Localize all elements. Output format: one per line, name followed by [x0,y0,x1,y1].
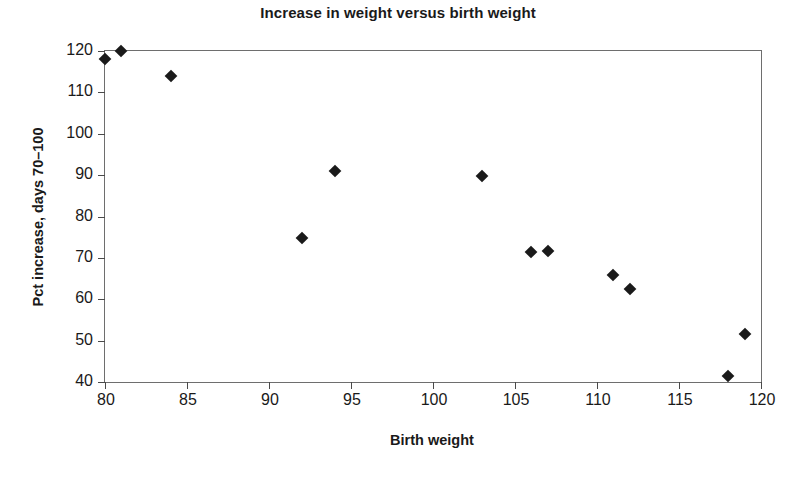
x-axis-tick: 90 [269,382,270,389]
y-axis-tick-label: 70 [75,248,93,266]
y-axis-tick: 80 [98,217,105,218]
y-axis-tick: 60 [98,299,105,300]
x-axis-tick-label: 80 [97,391,115,409]
y-axis-tick: 90 [98,175,105,176]
x-axis-tick: 80 [105,382,106,389]
x-axis-tick: 110 [597,382,598,389]
y-axis-tick-label: 120 [66,41,93,59]
data-point [738,328,751,341]
data-point [164,69,177,82]
data-point [476,170,489,183]
y-axis-tick: 100 [98,134,105,135]
x-axis-tick-label: 110 [585,391,611,409]
y-axis-tick-label: 80 [75,207,93,225]
y-axis-tick-label: 40 [75,372,93,390]
y-axis-tick-label: 100 [66,124,93,142]
y-axis-tick-label: 110 [67,82,93,100]
y-axis-tick: 50 [98,341,105,342]
chart-title: Increase in weight versus birth weight [0,4,796,21]
data-point [328,165,341,178]
x-axis-tick-label: 115 [667,391,693,409]
data-point [722,369,735,382]
x-axis-tick: 115 [679,382,680,389]
y-axis-tick-label: 50 [75,331,93,349]
data-point [607,269,620,282]
x-axis-tick: 120 [761,382,762,389]
x-axis-tick-label: 100 [421,391,448,409]
data-point [525,245,538,258]
x-axis-tick-label: 90 [261,391,279,409]
data-point [115,45,128,58]
data-point [295,232,308,245]
x-axis-tick-label: 95 [343,391,361,409]
x-axis-tick: 100 [433,382,434,389]
data-point [623,283,636,296]
x-axis-tick-label: 120 [749,391,776,409]
x-axis-title: Birth weight [104,432,760,448]
y-axis-tick: 70 [98,258,105,259]
x-axis-tick: 85 [187,382,188,389]
y-axis-title: Pct increase, days 70–100 [30,67,46,367]
x-axis-tick-label: 85 [179,391,197,409]
x-axis-tick-label: 105 [503,391,530,409]
x-axis-tick: 95 [351,382,352,389]
plot-area: 4050607080901001101208085909510010511011… [104,50,762,383]
y-axis-tick: 40 [98,382,105,383]
y-axis-tick: 110 [98,92,105,93]
y-axis-tick-label: 60 [75,289,93,307]
data-point [99,53,112,66]
y-axis-tick-label: 90 [75,165,93,183]
data-point [541,245,554,258]
scatter-chart-figure: Increase in weight versus birth weight P… [0,0,796,477]
x-axis-tick: 105 [515,382,516,389]
